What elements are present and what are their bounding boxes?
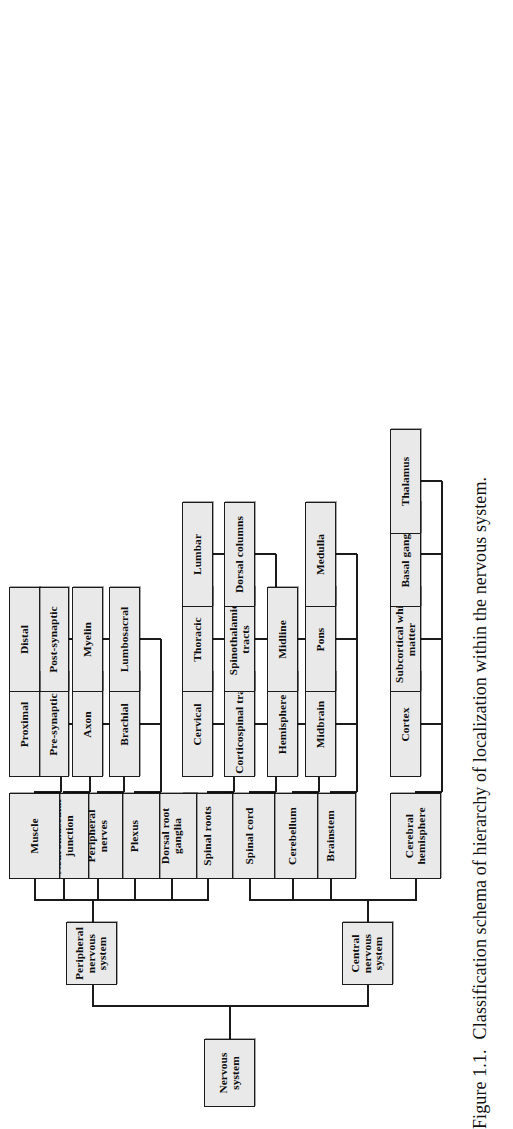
node-distal[interactable]: Distal bbox=[9, 587, 40, 692]
node-label: Muscle bbox=[29, 818, 41, 853]
node-label: Thalamus bbox=[400, 457, 412, 507]
edge-pns-to-dorsal-root-ganglia bbox=[171, 879, 173, 901]
node-label: Proximal bbox=[19, 702, 31, 748]
edge-cns-to-cerebral-hemisphere bbox=[415, 879, 417, 901]
edge-pns-to-peripheral-nerves bbox=[97, 879, 99, 901]
edge-to-subcortical-white-matter bbox=[421, 638, 442, 640]
node-label: Distal bbox=[19, 625, 31, 654]
node-peripheral-nervous-system[interactable]: Peripheral nervous system bbox=[66, 922, 117, 985]
edge-pns-spine-lower bbox=[92, 899, 208, 901]
edge-cns-to-brainstem bbox=[330, 879, 332, 901]
node-label: Lumbosacral bbox=[119, 607, 131, 673]
figure-page: Nervous system Central nervous system Pe… bbox=[0, 0, 513, 1129]
node-label: Lumbar bbox=[192, 534, 204, 575]
edge-cns-spine-lower bbox=[367, 899, 416, 901]
node-label: Peripheral nervous system bbox=[74, 925, 109, 982]
node-dorsal-columns[interactable]: Dorsal columns bbox=[224, 502, 255, 607]
edge-to-midbrain bbox=[336, 723, 357, 725]
edge-to-thalamus bbox=[421, 480, 442, 482]
node-label: Peripheral nerves bbox=[86, 796, 109, 876]
edge-to-lumbosacral bbox=[140, 638, 161, 640]
node-label: Dorsal root ganglia bbox=[160, 796, 183, 876]
node-midline[interactable]: Midline bbox=[267, 587, 298, 692]
edge-pns-to-muscle bbox=[34, 879, 36, 901]
node-label: Dorsal columns bbox=[234, 516, 246, 593]
edge-cns-out bbox=[367, 900, 369, 922]
node-myelin[interactable]: Myelin bbox=[72, 587, 103, 692]
node-label: Cortex bbox=[400, 707, 412, 741]
node-label: Spinal cord bbox=[244, 807, 256, 864]
rotated-figure-stage: Nervous system Central nervous system Pe… bbox=[0, 0, 513, 1129]
figure-caption-text: Classification schema of hierarchy of lo… bbox=[470, 477, 490, 1040]
node-thalamus[interactable]: Thalamus bbox=[390, 429, 421, 534]
hierarchy-diagram: Nervous system Central nervous system Pe… bbox=[0, 0, 460, 1129]
node-label: Pre-synaptic bbox=[48, 693, 60, 755]
node-muscle[interactable]: Muscle bbox=[9, 793, 60, 879]
edge-to-cortex bbox=[421, 723, 442, 725]
node-nervous-system[interactable]: Nervous system bbox=[204, 1039, 255, 1107]
edge-cerebral-hemisphere-bus bbox=[441, 481, 443, 792]
edge-pns-to-nmj bbox=[63, 879, 65, 901]
edge-cns-spine bbox=[249, 899, 368, 901]
node-label: Cerebellum bbox=[287, 807, 299, 865]
edge-trunk-to-pns bbox=[92, 985, 94, 1007]
edge-root-to-trunk bbox=[229, 1006, 231, 1039]
edge-trunk-to-cns bbox=[367, 985, 369, 1007]
edge-to-pons bbox=[336, 638, 357, 640]
node-cerebral-hemisphere[interactable]: Cerebral hemisphere bbox=[390, 793, 441, 879]
edge-to-dorsal-columns bbox=[255, 553, 276, 555]
node-medulla[interactable]: Medulla bbox=[305, 502, 336, 607]
node-label: Thoracic bbox=[192, 617, 204, 661]
figure-number: Figure 1.1. bbox=[470, 1049, 490, 1129]
node-label: Axon bbox=[82, 711, 94, 737]
node-label: Pons bbox=[315, 628, 327, 652]
edge-brainstem-bus bbox=[356, 554, 358, 792]
node-label: Brachial bbox=[119, 703, 131, 746]
node-label: Brainstem bbox=[325, 810, 337, 862]
node-label: Midline bbox=[277, 620, 289, 659]
node-label: Cervical bbox=[192, 704, 204, 746]
node-lumbar[interactable]: Lumbar bbox=[182, 502, 213, 607]
edge-cns-to-spinal-cord bbox=[249, 879, 251, 901]
node-label: Cerebral hemisphere bbox=[404, 796, 427, 876]
edge-plexus-bus bbox=[160, 639, 162, 792]
edge-trunk-main bbox=[92, 1005, 368, 1007]
node-central-nervous-system[interactable]: Central nervous system bbox=[342, 922, 393, 985]
node-label: Nervous system bbox=[218, 1042, 241, 1104]
edge-pns-to-plexus bbox=[134, 879, 136, 901]
node-label: Spinal roots bbox=[202, 806, 214, 866]
node-label: Hemisphere bbox=[277, 695, 289, 755]
node-label: Medulla bbox=[315, 534, 327, 575]
edge-to-basal-ganglia bbox=[421, 553, 442, 555]
edge-pns-out bbox=[92, 900, 94, 922]
node-label: Post-synaptic bbox=[48, 606, 60, 672]
edge-pns-to-spinal-roots bbox=[207, 879, 209, 901]
node-post-synaptic[interactable]: Post-synaptic bbox=[38, 587, 69, 692]
edge-cns-to-cerebellum bbox=[292, 879, 294, 901]
node-label: Midbrain bbox=[315, 701, 327, 749]
figure-caption: Figure 1.1.Classification schema of hier… bbox=[470, 0, 491, 1129]
edge-to-medulla bbox=[336, 553, 357, 555]
node-label: Central nervous system bbox=[350, 925, 385, 982]
node-label: Plexus bbox=[129, 820, 141, 852]
edge-to-brachial bbox=[140, 723, 161, 725]
node-lumbosacral[interactable]: Lumbosacral bbox=[109, 587, 140, 692]
node-label: Myelin bbox=[82, 622, 94, 657]
